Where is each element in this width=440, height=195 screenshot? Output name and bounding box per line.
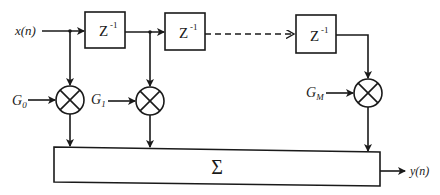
delay-block-2: Z -1 [165,13,205,50]
delay-exponent: -1 [190,22,198,32]
output-label: y(n) [409,164,429,178]
summer-block: Σ [54,147,380,186]
multiplier-1 [136,87,164,115]
summer-label: Σ [211,156,223,178]
tap-wire-M [336,35,368,78]
gain-label-M: GM [306,85,324,102]
delay-label: Z [179,25,188,41]
delay-label: Z [310,28,319,44]
delay-label: Z [99,23,108,39]
multiplier-0 [56,86,84,114]
fir-filter-diagram: x(n) Z -1 Z -1 Z -1 G0 G1 [0,0,440,195]
multiplier-M [354,79,382,107]
gain-label-1: G1 [91,92,106,109]
delay-block-3: Z -1 [296,15,336,53]
gain-label-0: G0 [12,93,27,110]
input-label: x(n) [14,23,36,38]
delay-exponent: -1 [321,25,329,35]
delay-exponent: -1 [110,20,118,30]
delay-block-1: Z -1 [85,12,125,48]
